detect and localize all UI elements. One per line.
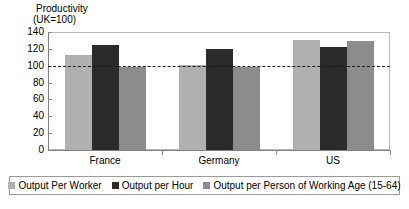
y-axis-tick-label: 80 (18, 78, 44, 88)
legend-item-3[interactable]: Output per Person of Working Age (15-64) (203, 180, 400, 191)
y-axis-tick-label: 20 (18, 128, 44, 138)
category-separator-tick (276, 150, 277, 155)
category-label-us: US (276, 155, 390, 167)
bar-us-series-1 (293, 40, 320, 150)
bar-us-series-2 (320, 47, 347, 150)
legend-swatch-icon (8, 182, 15, 189)
bar-germany-series-1 (179, 65, 206, 150)
bar-germany-series-2 (206, 49, 233, 150)
y-axis-tick-label: 60 (18, 94, 44, 104)
legend-label: Output Per Worker (18, 180, 101, 191)
bars-layer (48, 32, 390, 150)
y-axis-tick-label: 40 (18, 111, 44, 121)
category-label-germany: Germany (162, 155, 276, 167)
productivity-bar-chart: Productivity (UK=100) 140120100806040200… (0, 0, 409, 209)
chart-legend: Output Per WorkerOutput per HourOutput p… (9, 176, 400, 195)
y-axis-tick-label: 100 (18, 61, 44, 71)
y-axis-tick-label: 0 (18, 145, 44, 155)
bar-france-series-1 (65, 55, 92, 150)
y-axis-tick-label: 120 (18, 44, 44, 54)
bar-france-series-2 (92, 45, 119, 150)
legend-item-2[interactable]: Output per Hour (112, 180, 194, 191)
bar-france-series-3 (119, 67, 146, 150)
legend-item-1[interactable]: Output Per Worker (8, 180, 101, 191)
category-label-france: France (48, 155, 162, 167)
legend-swatch-icon (112, 182, 119, 189)
reference-line-100 (48, 66, 390, 67)
legend-label: Output per Hour (122, 180, 194, 191)
bar-us-series-3 (347, 41, 374, 150)
category-separator-tick (390, 150, 391, 155)
legend-swatch-icon (203, 182, 210, 189)
x-axis-line (48, 150, 390, 151)
y-axis-tick (48, 150, 52, 151)
bar-germany-series-3 (233, 67, 260, 150)
legend-label: Output per Person of Working Age (15-64) (213, 180, 400, 191)
y-axis-tick-label: 140 (18, 27, 44, 37)
category-separator-tick (162, 150, 163, 155)
